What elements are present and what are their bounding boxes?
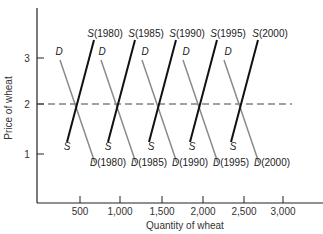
supply-demand-chart: 3 2 1 500 1,000 1,500 2,000 2,500 3,000 … (0, 0, 323, 234)
supply-label-1990: S(1990) (169, 28, 205, 39)
demand-label: D (224, 46, 231, 57)
demand-label: D (141, 46, 148, 57)
y-ticks: 3 2 1 (24, 53, 44, 160)
supply-label: S (148, 141, 155, 152)
x-axis-title: Quantity of wheat (146, 220, 224, 231)
x-tick-label: 1,000 (107, 206, 132, 217)
demand-label: D (55, 46, 62, 57)
supply-label: S (105, 141, 112, 152)
demand-bottom-labels: D(1980) D(1985) D(1990) D(1995) D(2000) (90, 157, 290, 168)
demand-label-1980: D(1980) (90, 157, 126, 168)
demand-label-1990: D(1990) (172, 157, 208, 168)
demand-label: D (182, 46, 189, 57)
demand-label-2000: D(2000) (254, 157, 290, 168)
supply-label: S (189, 141, 196, 152)
x-tick-label: 3,000 (270, 206, 295, 217)
supply-label-2000: S(2000) (252, 28, 288, 39)
demand-top-labels: D D D D D (55, 46, 231, 57)
x-tick-label: 2,000 (190, 206, 215, 217)
y-tick-label: 2 (24, 99, 30, 110)
x-tick-label: 2,500 (231, 206, 256, 217)
y-tick-label: 1 (24, 149, 30, 160)
demand-label-1985: D(1985) (131, 157, 167, 168)
demand-label-1995: D(1995) (213, 157, 249, 168)
supply-label: S (230, 141, 237, 152)
y-tick-label: 3 (24, 53, 30, 64)
demand-label: D (98, 46, 105, 57)
supply-label-1980: S(1980) (87, 28, 123, 39)
y-axis-title: Price of wheat (3, 76, 14, 140)
x-tick-label: 1,500 (149, 206, 174, 217)
x-ticks: 500 1,000 1,500 2,000 2,500 3,000 (72, 196, 296, 217)
supply-label-1985: S(1985) (128, 28, 164, 39)
supply-label: S (64, 141, 71, 152)
x-tick-label: 500 (72, 206, 89, 217)
supply-label-1995: S(1995) (210, 28, 246, 39)
supply-top-labels: S(1980) S(1985) S(1990) S(1995) S(2000) (87, 28, 288, 39)
